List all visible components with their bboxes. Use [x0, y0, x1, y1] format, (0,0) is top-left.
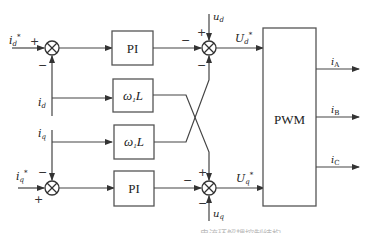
label-ud-ref: Ud* — [235, 31, 253, 46]
pi-controller-q: PI — [114, 171, 154, 206]
decoupling-block-q: ω1L — [114, 125, 154, 159]
sign-minus: − — [38, 59, 47, 72]
label-id-ref: id* — [9, 33, 21, 48]
label-iq-ref: iq* — [16, 169, 28, 184]
sign-minus: − — [181, 34, 190, 47]
sign-plus: + — [34, 193, 43, 206]
sign-minus: − — [183, 174, 192, 187]
figure-caption: 电流环解耦控制结构 — [200, 228, 281, 233]
decoupling-block-d: ω1L — [113, 79, 153, 112]
sign-minus: − — [197, 59, 206, 72]
label-ic: iC — [331, 154, 340, 167]
label-ia: iA — [331, 56, 340, 69]
sign-plus: + — [198, 166, 207, 179]
sign-plus: + — [197, 26, 206, 39]
sign-minus: − — [38, 166, 47, 179]
summing-junction-q-input — [45, 181, 59, 195]
sign-plus: + — [30, 35, 39, 48]
svg-text:PI: PI — [128, 181, 140, 196]
summing-junction-q-output — [202, 181, 216, 195]
svg-text:PI: PI — [127, 41, 139, 56]
summing-junction-d-input — [45, 41, 59, 55]
sign-minus: − — [198, 197, 207, 210]
label-uq-ref: Uq* — [236, 171, 254, 186]
label-uq: uq — [213, 208, 224, 221]
label-ud: ud — [213, 11, 224, 24]
label-iq: iq — [38, 127, 47, 141]
pi-controller-d: PI — [112, 31, 153, 65]
label-id: id — [38, 96, 47, 110]
control-block-diagram: id* + − id PI ω1L iq ω1L iq* — [0, 0, 376, 233]
summing-junction-d-output — [202, 41, 216, 55]
svg-text:PWM: PWM — [274, 112, 306, 127]
pwm-block: PWM — [263, 28, 316, 206]
label-ib: iB — [331, 104, 339, 117]
